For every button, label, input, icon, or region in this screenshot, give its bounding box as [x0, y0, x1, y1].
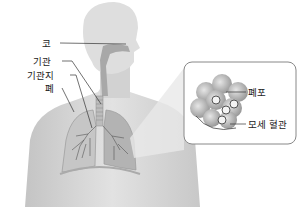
body-illustration	[0, 0, 301, 207]
label-nose: 코	[42, 38, 51, 49]
label-trachea: 기관	[33, 56, 51, 67]
head	[83, 2, 140, 74]
label-capillary: 모세 혈관	[248, 119, 287, 130]
respiratory-diagram: 코 기관 기관지 폐 폐포 모세 혈관	[0, 0, 301, 207]
trachea-shape	[96, 96, 103, 126]
label-lung: 폐	[45, 83, 54, 94]
label-bronchi: 기관지	[27, 70, 54, 81]
label-alveoli: 폐포	[248, 87, 266, 98]
